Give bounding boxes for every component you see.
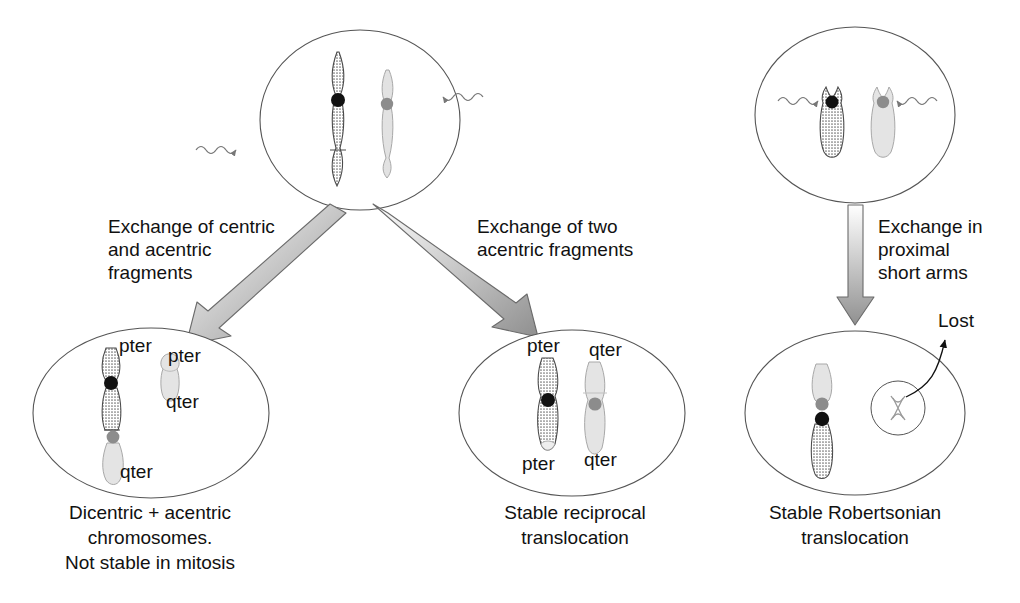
label-pter-dicentric: pter bbox=[119, 334, 152, 357]
chromosome-light-acrocentric bbox=[871, 87, 895, 157]
cell-top-right bbox=[755, 27, 955, 203]
label-lost: Lost bbox=[938, 309, 974, 332]
label-qter-dicentric: qter bbox=[120, 460, 153, 483]
chromosome-derivative-1 bbox=[538, 358, 558, 450]
centromere-dark bbox=[815, 412, 829, 426]
label-pter-top: pter bbox=[527, 334, 560, 357]
centromere-gray bbox=[588, 397, 601, 410]
caption-left-line3: Not stable in mitosis bbox=[0, 550, 300, 575]
cell-membrane bbox=[260, 30, 460, 210]
label-pter-bottom: pter bbox=[522, 452, 555, 475]
arrow-label-middle-line2: acentric fragments bbox=[477, 238, 633, 261]
cell-top-left bbox=[196, 30, 483, 210]
centromere-dark bbox=[331, 93, 345, 107]
caption-middle-line2: translocation bbox=[455, 525, 695, 550]
label-qter-fragment: qter bbox=[166, 390, 199, 413]
arrow-label-left-line1: Exchange of centric bbox=[108, 215, 275, 238]
figure-canvas: Exchange of centric and acentric fragmen… bbox=[0, 0, 1020, 603]
caption-right-line1: Stable Robertsonian bbox=[735, 500, 975, 525]
cell-membrane bbox=[459, 330, 685, 496]
label-qter-bottom: qter bbox=[584, 448, 617, 471]
lost-fragment-circle bbox=[871, 381, 925, 435]
cell-membrane bbox=[745, 331, 965, 495]
arrow-label-left-line2: and acentric bbox=[108, 238, 212, 261]
caption-left-line2: chromosomes. bbox=[0, 525, 300, 550]
centromere-gray bbox=[107, 431, 120, 444]
centromere-gray bbox=[877, 96, 889, 108]
caption-left-line1: Dicentric + acentric bbox=[0, 500, 300, 525]
caption-middle-line1: Stable reciprocal bbox=[455, 500, 695, 525]
arrow-label-right-line3: short arms bbox=[878, 261, 968, 284]
centromere-gray bbox=[815, 397, 828, 410]
arrow-label-right-line1: Exchange in bbox=[878, 215, 983, 238]
cell-bottom-right bbox=[745, 331, 965, 495]
chromosome-dark-acrocentric bbox=[820, 87, 844, 157]
chromosome-derivative-2 bbox=[583, 362, 607, 454]
cell-membrane bbox=[755, 27, 955, 203]
cell-bottom-middle bbox=[459, 330, 685, 496]
arrow-label-middle-line1: Exchange of two bbox=[477, 215, 617, 238]
centromere-gray bbox=[381, 98, 393, 110]
label-pter-fragment: pter bbox=[168, 344, 201, 367]
arrow-right-branch bbox=[837, 205, 874, 325]
label-qter-top: qter bbox=[589, 338, 622, 361]
centromere-dark bbox=[826, 96, 839, 109]
centromere-dark bbox=[104, 376, 118, 390]
centromere-dark bbox=[541, 393, 555, 407]
caption-right-line2: translocation bbox=[735, 525, 975, 550]
arrow-label-right-line2: proximal bbox=[878, 238, 950, 261]
arrow-label-left-line3: fragments bbox=[108, 261, 192, 284]
